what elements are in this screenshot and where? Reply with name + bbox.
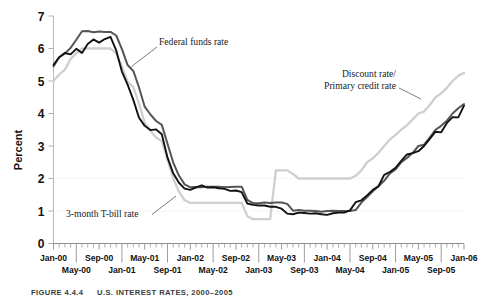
annotation-federal-funds-rate-label: Federal funds rate [159,36,228,47]
x-axis-tick-label: Sep-04 [359,253,387,263]
figure-caption-label: FIGURE 4.4.4 [31,288,84,297]
figure-caption-title: U.S. INTEREST RATES, 2000–2005 [97,288,233,297]
y-axis-tick-label: 0 [38,237,45,251]
y-axis-tick-label: 2 [38,172,45,186]
x-axis-tick-label: Sep-05 [427,265,455,275]
x-axis-tick-label: Sep-02 [222,253,250,263]
x-axis-tick-label: Sep-00 [85,253,113,263]
y-axis-tick-label: 4 [38,107,45,121]
y-axis-tick-label: 7 [38,10,45,24]
x-axis-tick-label: Jan-01 [108,265,135,275]
annotation-discount-rate-label-line2: Primary credit rate [324,80,396,91]
x-axis-tick-label: Sep-03 [290,265,318,275]
figure-container: 01234567 Jan-00Sep-00May-01Jan-02Sep-02M… [0,0,481,299]
x-axis-tick-label: May-03 [267,253,296,263]
x-axis-tick-label: Jan-02 [177,253,204,263]
y-axis-tick-label: 6 [38,42,45,56]
x-axis-tick-label: May-02 [199,265,228,275]
interest-rates-line-chart: 01234567 Jan-00Sep-00May-01Jan-02Sep-02M… [0,0,481,299]
x-axis-tick-label: Jan-04 [314,253,341,263]
x-axis-tick-label: May-05 [404,253,433,263]
x-axis-tick-label: Jan-06 [450,253,477,263]
x-axis-tick-label: May-01 [130,253,159,263]
annotation-t-bill-rate-label: 3-month T-bill rate [66,208,138,219]
x-axis-tick-label: Jan-00 [40,253,67,263]
y-axis-tick-label: 1 [38,205,45,219]
annotation-discount-rate-label-line1: Discount rate/ [342,68,396,79]
x-axis-tick-label: Jan-03 [245,265,272,275]
figure-caption: FIGURE 4.4.4 U.S. INTEREST RATES, 2000–2… [31,288,233,297]
y-axis-tick-label: 3 [38,140,45,154]
y-axis-tick-label: 5 [38,75,45,89]
y-axis-title: Percent [12,129,24,170]
x-axis-tick-label: Sep-01 [153,265,181,275]
x-axis-tick-label: May-04 [335,265,364,275]
x-axis-tick-label: Jan-05 [382,265,409,275]
x-axis-labels-row-lower: May-00Jan-01Sep-01May-02Jan-03Sep-03May-… [62,265,456,275]
x-axis-tick-label: May-00 [62,265,91,275]
